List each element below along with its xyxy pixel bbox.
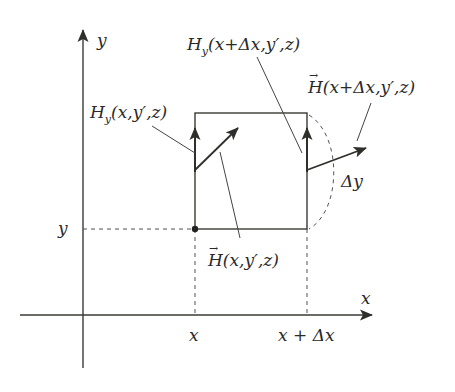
x-tick-left-label: x xyxy=(189,325,199,345)
x-axis-label: x xyxy=(361,288,371,308)
hvec-right-arrow xyxy=(307,148,366,170)
integration-loop xyxy=(195,113,307,229)
svg-text:H(x,y′,z): H(x,y′,z) xyxy=(207,250,279,270)
svg-text:Hy(x,y′,z): Hy(x,y′,z) xyxy=(89,102,167,126)
x-tick-right-label: x + Δx xyxy=(278,325,335,345)
svg-text:H(x+Δx,y′,z): H(x+Δx,y′,z) xyxy=(307,77,415,97)
hvec-left-label: → H(x,y′,z) xyxy=(207,242,279,270)
y-tick-label: y xyxy=(57,218,68,238)
dashed-guides xyxy=(83,229,307,315)
origin-point xyxy=(192,226,198,232)
hvec-left-arrow xyxy=(195,128,238,170)
y-axis-label: y xyxy=(96,30,107,50)
field-loop-diagram: y x y x x + Δx Hy(x,y′,z) Hy(x+Δx,y′,z) … xyxy=(0,0,455,392)
delta-y-arc xyxy=(309,115,334,229)
hy-left-label: Hy(x,y′,z) xyxy=(89,102,167,126)
hy-right-label: Hy(x+Δx,y′,z) xyxy=(186,34,300,58)
hvec-right-label: → H(x+Δx,y′,z) xyxy=(307,69,415,97)
delta-y-label: Δy xyxy=(340,171,363,191)
svg-text:Hy(x+Δx,y′,z): Hy(x+Δx,y′,z) xyxy=(186,34,300,58)
